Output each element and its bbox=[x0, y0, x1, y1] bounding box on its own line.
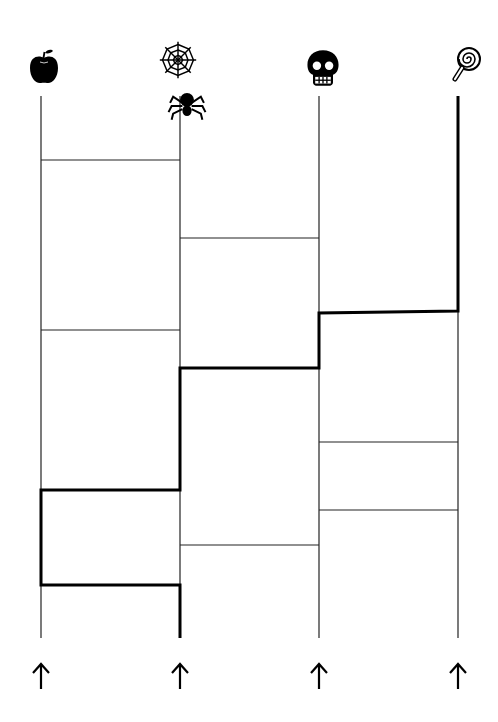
spider-web-icon bbox=[158, 40, 198, 80]
ladder-puzzle-board bbox=[0, 0, 498, 722]
apple-icon bbox=[24, 46, 64, 86]
up-arrow-button-skull[interactable] bbox=[307, 661, 331, 691]
up-arrow-button-apple[interactable] bbox=[29, 661, 53, 691]
rungs bbox=[41, 160, 458, 585]
up-arrow-button-lollipop[interactable] bbox=[446, 661, 470, 691]
highlighted-path bbox=[41, 96, 458, 638]
ladder-lines bbox=[0, 0, 498, 722]
lollipop-icon bbox=[446, 46, 486, 86]
up-arrow-button-web[interactable] bbox=[168, 661, 192, 691]
spider-icon bbox=[167, 86, 207, 126]
skull-icon bbox=[303, 48, 343, 88]
